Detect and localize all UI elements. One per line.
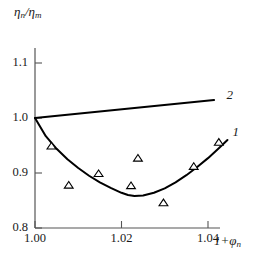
data-point-triangle <box>94 170 103 177</box>
axis-lines <box>35 48 220 228</box>
x-tick-label: 1.02 <box>97 231 147 246</box>
y-tick-label: 0.8 <box>2 220 28 235</box>
data-point-triangle <box>134 155 143 162</box>
y-tick-label: 1.1 <box>2 55 28 70</box>
curve-2 <box>35 100 214 118</box>
y-tick-label: 1.0 <box>2 110 28 125</box>
x-tick-label: 1.04 <box>183 231 233 246</box>
data-point-triangle <box>214 139 223 146</box>
curve-label-1: 1 <box>232 124 239 140</box>
plot-area <box>0 0 265 262</box>
y-tick-label: 0.9 <box>2 165 28 180</box>
data-point-triangle <box>159 199 168 206</box>
tick-marks <box>35 63 208 228</box>
curve-label-2: 2 <box>226 87 233 103</box>
data-point-triangle <box>64 182 73 189</box>
data-point-triangle <box>127 182 136 189</box>
figure-container: ηn/ηm 1+φn 1.001.021.040.80.91.01.1 12 <box>0 0 265 262</box>
